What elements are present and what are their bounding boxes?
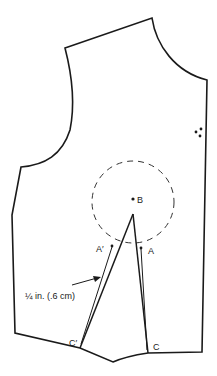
point-a-dot — [140, 247, 143, 250]
line-a-prime-c-prime — [81, 247, 112, 344]
bodice-outline — [12, 18, 207, 362]
label-b: B — [137, 195, 143, 205]
notch-dot-1 — [195, 131, 198, 134]
measurement-label: ¼ in. (.6 cm) — [25, 291, 75, 301]
label-a: A — [148, 246, 154, 256]
label-c-prime: C′ — [69, 338, 77, 348]
point-a-prime-dot — [111, 245, 114, 248]
bodice-pattern-diagram: B A′ A C′ C ¼ in. (.6 cm) — [0, 0, 217, 376]
label-a-prime: A′ — [96, 244, 104, 254]
notch-dot-3 — [199, 135, 202, 138]
arrowhead-icon — [93, 276, 101, 282]
bust-circle — [92, 161, 174, 243]
measurement-arrow — [72, 278, 97, 285]
notch-dot-2 — [200, 128, 203, 131]
point-b-dot — [131, 197, 134, 200]
label-c: C — [153, 342, 160, 352]
